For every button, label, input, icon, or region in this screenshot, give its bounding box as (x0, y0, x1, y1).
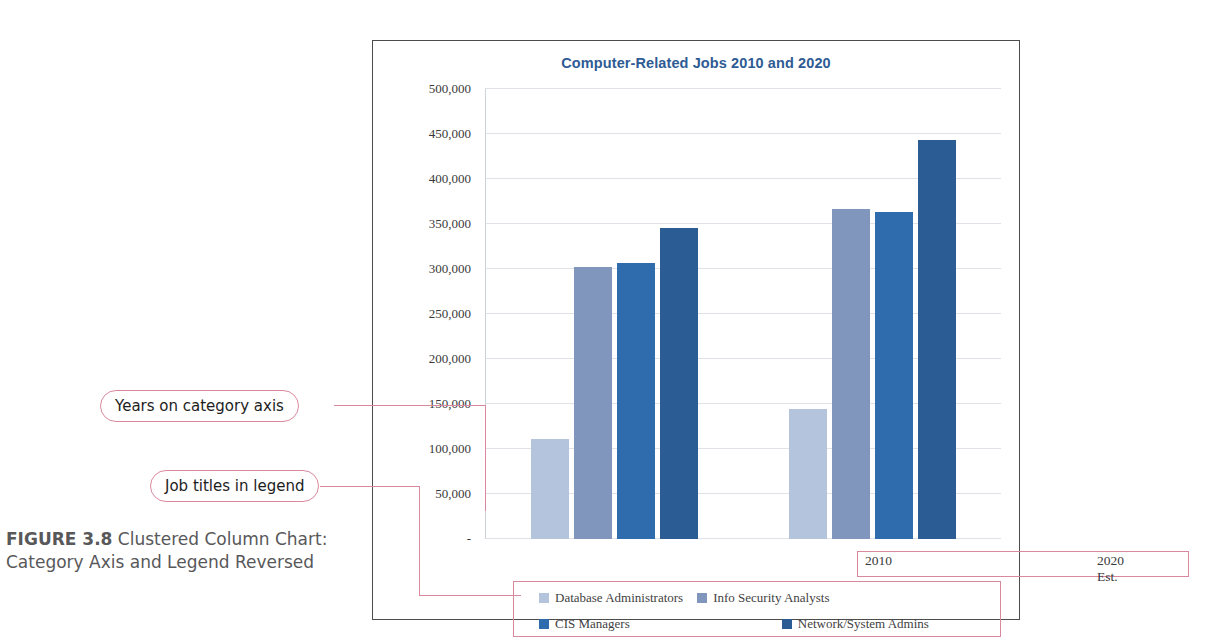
y-axis-tick-label: 350,000 (429, 216, 471, 232)
y-axis-tick-label: 50,000 (435, 486, 471, 502)
callout-years-on-category-axis: Years on category axis (100, 390, 299, 422)
legend-label-database-administrators: Database Administrators (555, 590, 683, 606)
legend-item-database-administrators[interactable]: Database Administrators (539, 590, 683, 606)
callout-job-titles-in-legend: Job titles in legend (150, 470, 319, 502)
bar-2020est-s2[interactable] (875, 212, 913, 539)
bar-group (743, 89, 1001, 539)
legend-swatch-network-system-admins (782, 619, 792, 629)
legend-item-info-security-analysts[interactable]: Info Security Analysts (697, 590, 829, 606)
legend-row-bottom: CIS Managers Network/System Admins (521, 611, 993, 637)
y-axis-tick-label: 500,000 (429, 81, 471, 97)
figure-container: Computer-Related Jobs 2010 and 2020 -50,… (0, 0, 1208, 643)
legend-label-cis-managers: CIS Managers (555, 616, 630, 632)
legend-item-cis-managers[interactable]: CIS Managers (539, 616, 630, 632)
chart-frame: Computer-Related Jobs 2010 and 2020 -50,… (372, 40, 1020, 620)
chart-title: Computer-Related Jobs 2010 and 2020 (373, 55, 1019, 71)
category-axis-highlight-box (857, 551, 1189, 577)
leader-line-legend-horizontal (320, 486, 420, 487)
leader-line-years-horizontal (334, 405, 486, 406)
y-axis-tick-label: 300,000 (429, 261, 471, 277)
bar-2020est-s3[interactable] (918, 140, 956, 539)
y-axis-tick-label: 150,000 (429, 396, 471, 412)
bar-group (485, 89, 743, 539)
figure-caption: FIGURE 3.8 Clustered Column Chart: Categ… (6, 528, 356, 574)
y-axis-tick-label: 450,000 (429, 126, 471, 142)
y-axis-tick-label: 100,000 (429, 441, 471, 457)
category-axis-label-2020: 2020 Est. (1097, 553, 1124, 585)
bar-2010-s1[interactable] (574, 267, 612, 539)
bar-2020est-s0[interactable] (789, 409, 827, 539)
y-axis-tick-label: 400,000 (429, 171, 471, 187)
legend-label-info-security-analysts: Info Security Analysts (713, 590, 829, 606)
y-axis-tick-label: 200,000 (429, 351, 471, 367)
legend-row-top: Database Administrators Info Security An… (521, 585, 993, 611)
leader-line-legend-horizontal-2 (419, 595, 521, 596)
y-axis-tick-label: - (467, 531, 471, 547)
legend-swatch-database-administrators (539, 593, 549, 603)
figure-number: FIGURE 3.8 (6, 529, 112, 549)
callout-years-label: Years on category axis (115, 397, 284, 415)
leader-line-years-vertical (485, 405, 486, 511)
bar-2010-s0[interactable] (531, 439, 569, 539)
category-axis-label-2010: 2010 (865, 553, 892, 569)
y-axis-tick-label: 250,000 (429, 306, 471, 322)
legend-label-network-system-admins: Network/System Admins (798, 616, 929, 632)
legend-swatch-info-security-analysts (697, 593, 707, 603)
legend-item-network-system-admins[interactable]: Network/System Admins (782, 616, 929, 632)
y-axis-tick-labels: -50,000100,000150,000200,000250,000300,0… (383, 89, 479, 539)
plot-area (485, 89, 1001, 539)
callout-legend-label: Job titles in legend (165, 477, 304, 495)
leader-line-legend-vertical (419, 486, 420, 596)
bars-layer (485, 89, 1001, 539)
bar-2020est-s1[interactable] (832, 209, 870, 539)
legend-swatch-cis-managers (539, 619, 549, 629)
chart-legend: Database Administrators Info Security An… (513, 581, 1001, 637)
bar-2010-s2[interactable] (617, 263, 655, 539)
bar-2010-s3[interactable] (660, 228, 698, 539)
